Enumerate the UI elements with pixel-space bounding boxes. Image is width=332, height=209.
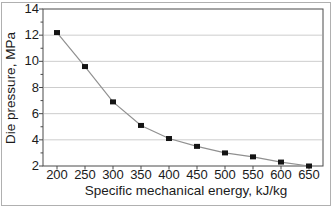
y-tick-label: 10 [13,54,39,68]
data-point-marker [250,154,256,159]
y-tick-label: 8 [13,81,39,95]
x-axis-title: Specific mechanical energy, kJ/kg [85,183,287,198]
series-line [57,33,309,166]
y-tick-label: 12 [13,28,39,42]
y-tick-label: 4 [13,133,39,147]
die-pressure-chart: Die pressure, MPa Specific mechanical en… [0,0,332,209]
data-point-marker [278,160,284,165]
data-point-marker [138,123,144,128]
data-point-marker [194,144,200,149]
data-point-marker [166,136,172,141]
y-tick-label: 14 [13,2,39,16]
data-point-marker [54,30,60,35]
y-tick-label: 2 [13,159,39,173]
data-point-marker [82,64,88,69]
data-point-marker [222,150,228,155]
x-tick-label: 650 [292,168,326,182]
y-tick-label: 6 [13,107,39,121]
data-point-marker [110,99,116,104]
